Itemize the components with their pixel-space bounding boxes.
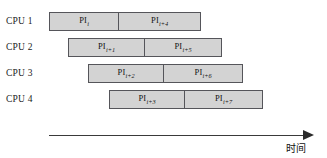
- task-base: PI: [79, 15, 87, 25]
- time-axis-label: 时间: [286, 140, 306, 155]
- task-segment-label: PIi: [79, 16, 89, 27]
- time-axis-line: [49, 135, 307, 136]
- task-segment-label: PIi+2: [117, 68, 134, 79]
- task-subscript: i+6: [202, 72, 211, 79]
- cpu-label-3: CPU 3: [6, 68, 48, 78]
- task-segment: PIi+2: [89, 65, 163, 82]
- time-axis-arrow-icon: [303, 130, 314, 140]
- cpu-label-2: CPU 2: [6, 42, 48, 52]
- task-bar-row-2: PIi+1 PIi+5: [68, 38, 222, 57]
- task-segment-label: PIi+5: [174, 42, 191, 53]
- task-segment: PIi: [50, 13, 118, 30]
- task-base: PI: [151, 15, 159, 25]
- task-segment: PIi+5: [144, 39, 221, 56]
- cpu-label-1: CPU 1: [6, 16, 48, 26]
- cpu-label-4: CPU 4: [6, 94, 48, 104]
- task-segment-label: PIi+7: [215, 94, 232, 105]
- task-segment: PIi+4: [118, 13, 200, 30]
- task-segment-label: PIi+4: [151, 16, 168, 27]
- task-segment-label: PIi+1: [98, 42, 115, 53]
- task-bar-row-4: PIi+3 PIi+7: [109, 90, 263, 109]
- task-base: PI: [215, 93, 223, 103]
- task-segment-label: PIi+3: [138, 94, 155, 105]
- task-bar-row-1: PIi PIi+4: [49, 12, 201, 31]
- pipeline-scheduling-figure: CPU 1 CPU 2 CPU 3 CPU 4 PIi PIi+4 PIi+1 …: [0, 0, 327, 158]
- task-subscript: i+4: [159, 20, 168, 27]
- task-segment-label: PIi+6: [194, 68, 211, 79]
- task-subscript: i+2: [125, 72, 134, 79]
- task-subscript: i+7: [223, 98, 232, 105]
- task-base: PI: [98, 41, 106, 51]
- task-subscript: i+1: [106, 46, 115, 53]
- task-segment: PIi+3: [110, 91, 184, 108]
- task-segment: PIi+7: [184, 91, 262, 108]
- task-segment: PIi+6: [163, 65, 242, 82]
- task-subscript: i+5: [182, 46, 191, 53]
- task-segment: PIi+1: [69, 39, 144, 56]
- task-subscript: i: [87, 20, 89, 27]
- task-subscript: i+3: [146, 98, 155, 105]
- task-bar-row-3: PIi+2 PIi+6: [88, 64, 243, 83]
